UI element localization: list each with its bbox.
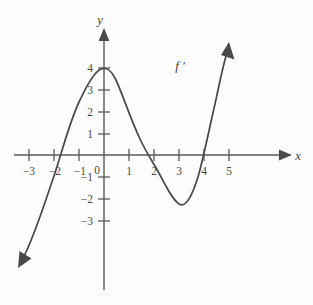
y-label--2: −2 [81,193,93,205]
y-axis-arrowhead [99,28,110,41]
y-tick-labels: 4 3 2 1 −1 −2 −3 [81,62,94,227]
x-label--3: −3 [23,165,35,177]
x-tick-labels: −3 −2 −1 0 1 2 3 4 5 [23,164,232,177]
figure-container: −3 −2 −1 0 1 2 3 4 5 4 3 2 1 −1 −2 −3 x … [0,0,313,305]
x-label-0: 0 [94,164,100,176]
x-axis-label: x [294,149,301,163]
x-label-3: 3 [176,165,182,177]
x-axis-arrowhead [279,150,292,161]
y-label-4: 4 [87,62,93,74]
x-axis-group [14,150,292,161]
y-label-3: 3 [87,84,93,96]
x-label--2: −2 [49,165,61,177]
curve-end-arrowhead [221,42,235,60]
x-label-5: 5 [226,165,232,177]
x-label-4: 4 [201,165,207,177]
curve-label-f-prime: f ' [175,58,185,73]
y-axis-group [99,28,110,290]
x-label-2: 2 [151,165,157,177]
y-label--3: −3 [81,215,93,227]
y-axis-label: y [95,13,103,27]
y-label-2: 2 [87,106,93,118]
x-label-1: 1 [126,165,132,177]
y-label-1: 1 [87,128,93,140]
graph-canvas: −3 −2 −1 0 1 2 3 4 5 4 3 2 1 −1 −2 −3 x … [0,0,313,305]
y-label--1: −1 [81,171,93,183]
